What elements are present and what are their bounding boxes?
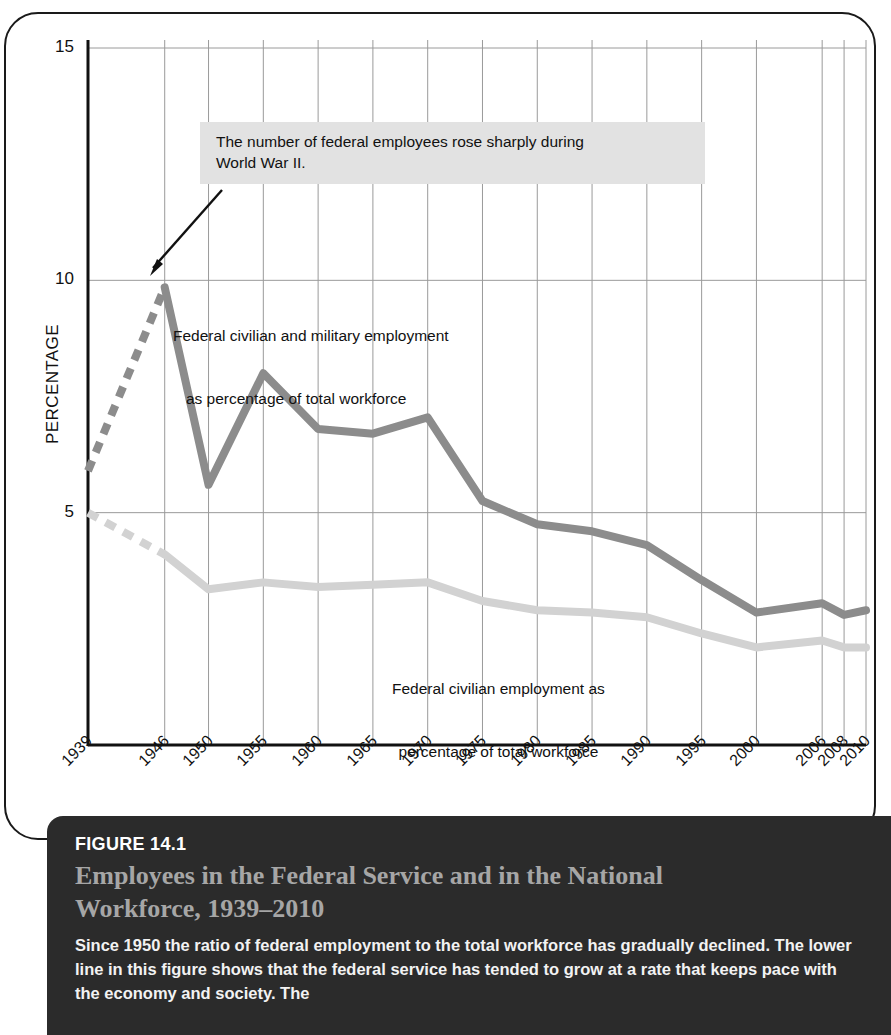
figure-page: PERCENTAGE 51015 19391946195019551960196… bbox=[0, 0, 891, 1035]
figure-caption-body: Since 1950 the ratio of federal employme… bbox=[75, 933, 857, 1005]
series-0-dashed-segment bbox=[88, 287, 165, 471]
callout-line-1: The number of federal employees rose sha… bbox=[216, 131, 705, 152]
figure-caption-panel: FIGURE 14.1 Employees in the Federal Ser… bbox=[47, 816, 891, 1035]
lower-series-label-line-1: Federal civilian employment as bbox=[392, 678, 605, 699]
lower-series-label-line-2: percentage of total workforce bbox=[392, 741, 605, 762]
upper-series-label-line-1: Federal civilian and military employment bbox=[173, 325, 449, 346]
y-axis-title: PERCENTAGE bbox=[43, 284, 63, 484]
upper-series-label-line-2: as percentage of total workforce bbox=[173, 388, 449, 409]
series-1-dashed-segment bbox=[88, 513, 165, 555]
y-tick-5: 5 bbox=[28, 502, 74, 522]
upper-series-label: Federal civilian and military employment… bbox=[173, 283, 449, 451]
figure-title: Employees in the Federal Service and in … bbox=[75, 859, 715, 925]
callout-annotation: The number of federal employees rose sha… bbox=[200, 122, 705, 184]
callout-arrow-icon bbox=[150, 190, 222, 276]
series-1-line bbox=[165, 554, 866, 647]
y-tick-10: 10 bbox=[28, 269, 74, 289]
callout-line-2: World War II. bbox=[216, 152, 705, 173]
lower-series-label: Federal civilian employment as percentag… bbox=[392, 636, 605, 804]
y-tick-15: 15 bbox=[28, 37, 74, 57]
figure-number: FIGURE 14.1 bbox=[75, 834, 857, 855]
